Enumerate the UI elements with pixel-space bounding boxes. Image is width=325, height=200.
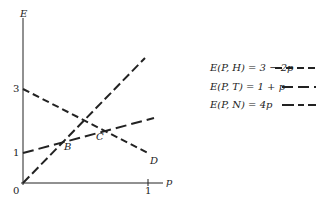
x-axis-label: p bbox=[166, 176, 172, 187]
point-c-label: C bbox=[96, 131, 104, 142]
series-t-line bbox=[23, 118, 154, 153]
legend-h-label: E(P, H) = 3 − 2p bbox=[210, 62, 293, 73]
point-b-label: B bbox=[64, 141, 71, 152]
y-tick-1-label: 1 bbox=[13, 147, 19, 158]
point-d-label: D bbox=[150, 155, 158, 166]
chart bbox=[0, 0, 325, 200]
legend-t-label: E(P, T) = 1 + p bbox=[210, 81, 285, 92]
legend-n-label: E(P, N) = 4p bbox=[210, 99, 272, 110]
series-h-line bbox=[23, 89, 148, 153]
x-tick-1-label: 1 bbox=[145, 185, 151, 196]
y-tick-3-label: 3 bbox=[13, 83, 19, 94]
origin-label: 0 bbox=[13, 185, 19, 196]
y-axis-label: E bbox=[20, 8, 27, 19]
